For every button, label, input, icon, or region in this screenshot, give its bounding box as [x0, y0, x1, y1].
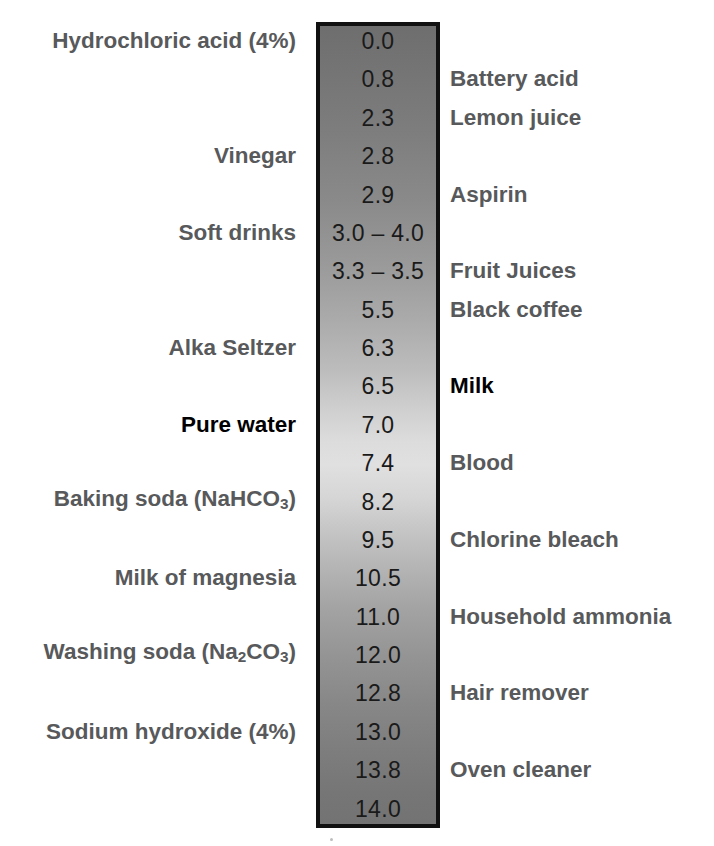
ph-row-left-label: Baking soda (NaHCO3) — [0, 480, 306, 524]
ph-row-left-label: Sodium hydroxide (4%) — [0, 713, 306, 751]
ph-row-left-label: Vinegar — [0, 137, 306, 175]
ph-row: 6.5Milk — [0, 367, 714, 405]
ph-row-right-label: Fruit Juices — [450, 252, 714, 290]
ph-row-value: 12.0 — [316, 636, 440, 674]
ph-row-left-label: Milk of magnesia — [0, 559, 306, 597]
ph-row-value: 7.0 — [316, 406, 440, 444]
ph-row: Milk of magnesia10.5 — [0, 559, 714, 597]
ph-row-right-label: Battery acid — [450, 60, 714, 98]
ph-row-right-label: Hair remover — [450, 674, 714, 712]
ph-row-value: 2.9 — [316, 176, 440, 214]
ph-row: Sodium hydroxide (4%)13.0 — [0, 713, 714, 751]
ph-row: 7.4Blood — [0, 444, 714, 482]
ph-row-value: 6.3 — [316, 329, 440, 367]
ph-row-right-label: Chlorine bleach — [450, 521, 714, 559]
ph-row-value: 13.0 — [316, 713, 440, 751]
ph-row: Vinegar2.8 — [0, 137, 714, 175]
ph-row-right-label: Milk — [450, 367, 714, 405]
ph-row: 11.0Household ammonia — [0, 598, 714, 636]
ph-row-left-label: Alka Seltzer — [0, 329, 306, 367]
ph-row: Hydrochloric acid (4%)0.0 — [0, 22, 714, 60]
ph-row: Soft drinks3.0 – 4.0 — [0, 214, 714, 252]
ph-row: 12.8Hair remover — [0, 674, 714, 712]
ph-row-list: Hydrochloric acid (4%)0.00.8Battery acid… — [0, 22, 714, 828]
ph-row-value: 11.0 — [316, 598, 440, 636]
ph-row-right-label: Oven cleaner — [450, 751, 714, 789]
ph-row: 0.8Battery acid — [0, 60, 714, 98]
ph-row-value: 12.8 — [316, 674, 440, 712]
ph-row: 13.8Oven cleaner — [0, 751, 714, 789]
ph-row-left-label: Hydrochloric acid (4%) — [0, 22, 306, 60]
ph-row-left-label: Washing soda (Na2CO3) — [0, 633, 306, 677]
ph-row-value: 6.5 — [316, 367, 440, 405]
ph-row-value: 2.8 — [316, 137, 440, 175]
ph-row: 9.5Chlorine bleach — [0, 521, 714, 559]
scan-artifact-speck — [330, 838, 333, 841]
ph-row-value: 8.2 — [316, 483, 440, 521]
ph-row-value: 9.5 — [316, 521, 440, 559]
ph-row-value: 2.3 — [316, 99, 440, 137]
ph-row: 3.3 – 3.5Fruit Juices — [0, 252, 714, 290]
ph-row-value: 13.8 — [316, 751, 440, 789]
ph-row: Pure water7.0 — [0, 406, 714, 444]
ph-row-value: 0.8 — [316, 60, 440, 98]
ph-row-value: 10.5 — [316, 559, 440, 597]
ph-row-right-label: Aspirin — [450, 176, 714, 214]
ph-row: 2.9Aspirin — [0, 176, 714, 214]
ph-row-value: 5.5 — [316, 291, 440, 329]
ph-row-value: 0.0 — [316, 22, 440, 60]
ph-row-right-label: Household ammonia — [450, 598, 714, 636]
ph-row-value: 3.0 – 4.0 — [316, 214, 440, 252]
ph-row-right-label: Black coffee — [450, 291, 714, 329]
ph-scale-figure: Hydrochloric acid (4%)0.00.8Battery acid… — [0, 0, 714, 846]
ph-row: Washing soda (Na2CO3)12.0 — [0, 636, 714, 674]
ph-row-right-label: Lemon juice — [450, 99, 714, 137]
ph-row: Alka Seltzer6.3 — [0, 329, 714, 367]
ph-row-left-label: Pure water — [0, 406, 306, 444]
ph-row-right-label: Blood — [450, 444, 714, 482]
ph-row: Baking soda (NaHCO3)8.2 — [0, 483, 714, 521]
ph-row-value: 14.0 — [316, 790, 440, 828]
ph-row: 14.0 — [0, 790, 714, 828]
ph-row-value: 7.4 — [316, 444, 440, 482]
ph-row-left-label: Soft drinks — [0, 214, 306, 252]
ph-row: 2.3Lemon juice — [0, 99, 714, 137]
ph-row: 5.5Black coffee — [0, 291, 714, 329]
ph-row-value: 3.3 – 3.5 — [316, 252, 440, 290]
